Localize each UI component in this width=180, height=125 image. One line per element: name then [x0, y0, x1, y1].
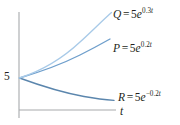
curve-label-Q-exponent-variable: t [151, 7, 153, 15]
curve-label-Q-exponent: 0.3t [142, 7, 153, 15]
curve-label-R-exponent-number: −0.2 [146, 90, 159, 98]
curve-label-P-exponent: 0.2t [141, 41, 152, 49]
curve-label-P-exponent-variable: t [150, 41, 152, 49]
curve-label-P-equals: = [120, 42, 130, 54]
curve-label-Q: Q=5e0.3t [113, 9, 153, 21]
curve-label-R-exponent: −0.2t [146, 90, 161, 98]
curve-P [20, 39, 111, 78]
curve-label-R-equals: = [125, 91, 135, 103]
curve-R [20, 78, 115, 100]
x-axis-label: t [120, 106, 123, 118]
curve-label-R-exponent-variable: t [159, 90, 161, 98]
curve-label-Q-equals: = [121, 8, 131, 20]
curve-label-R: R=5e−0.2t [118, 92, 161, 104]
curve-label-Q-exponent-number: 0.3 [142, 7, 151, 15]
exponential-curves-figure: 5 t Q=5e0.3t P=5e0.2t R=5e−0.2t [0, 0, 180, 125]
y-axis-tick-label-5: 5 [4, 71, 10, 83]
curve-label-P: P=5e0.2t [113, 43, 152, 55]
curve-label-P-exponent-number: 0.2 [141, 41, 150, 49]
